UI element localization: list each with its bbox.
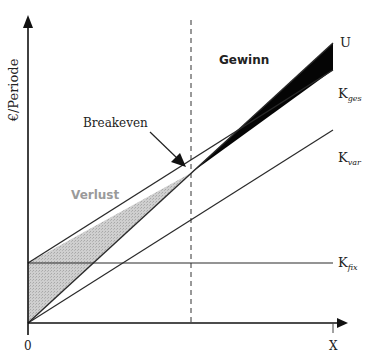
gewinn-label: Gewinn [219, 53, 269, 67]
k-var-sub: var [348, 158, 362, 167]
k-ges-main: K [338, 86, 348, 101]
x-axis-arrow-icon [337, 318, 348, 328]
breakeven-diagram: €/Periode X 0 Breakeven Gewinn Verlust U… [0, 0, 368, 362]
y-axis-arrow-icon [23, 15, 33, 28]
k-fix-main: K [338, 255, 348, 270]
k-fix-sub: fix [347, 263, 358, 272]
k-ges-label: Kges [338, 86, 362, 103]
k-ges-line [28, 70, 333, 263]
origin-label: 0 [24, 339, 32, 353]
x-axis-label: X [329, 339, 338, 353]
breakeven-pointer-line [150, 132, 178, 159]
u-label: U [340, 35, 351, 50]
k-fix-label: Kfix [338, 255, 358, 272]
y-axis-label: €/Periode [6, 58, 21, 122]
k-ges-sub: ges [348, 94, 362, 103]
verlust-label: Verlust [71, 188, 119, 202]
u-revenue-line [28, 43, 333, 323]
breakeven-label: Breakeven [83, 116, 148, 130]
k-var-label: Kvar [338, 150, 362, 167]
k-var-main: K [338, 150, 348, 165]
